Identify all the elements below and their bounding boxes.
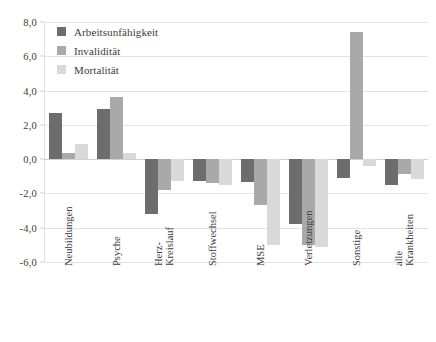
legend-item-label: Invalidität bbox=[74, 45, 120, 57]
legend-item-label: Mortalität bbox=[74, 64, 119, 76]
x-axis-label: Verletzungen bbox=[303, 211, 314, 266]
y-tick-label: 4,0 bbox=[23, 85, 44, 96]
legend-swatch-icon bbox=[57, 27, 66, 36]
x-axis-label: Stoffwechsel bbox=[207, 211, 218, 266]
bar bbox=[75, 144, 88, 159]
x-axis-label: alleKrankheiten bbox=[393, 214, 416, 266]
bar-chart: 8,06,04,02,00,0-2,0-4,0-6,0 Arbeitsunfäh… bbox=[0, 0, 436, 342]
legend-item: Invalidität bbox=[57, 41, 158, 60]
y-tick-label: 2,0 bbox=[23, 119, 44, 130]
legend-item: Arbeitsunfähigkeit bbox=[57, 22, 158, 41]
bar bbox=[411, 159, 424, 179]
bar-group bbox=[241, 22, 280, 262]
bar bbox=[289, 159, 302, 224]
x-axis-label: Herz-Kreislauf bbox=[153, 227, 176, 266]
bar bbox=[193, 159, 206, 181]
bar-group bbox=[337, 22, 376, 262]
y-tick-label: -6,0 bbox=[20, 257, 44, 268]
bar bbox=[158, 159, 171, 190]
y-tick-label: 8,0 bbox=[23, 17, 44, 28]
x-axis-label: Psyche bbox=[111, 236, 122, 266]
y-tick-label: 0,0 bbox=[23, 154, 44, 165]
bar bbox=[315, 159, 328, 246]
legend-item: Mortalität bbox=[57, 60, 158, 79]
y-tick-label: -4,0 bbox=[20, 222, 44, 233]
legend-swatch-icon bbox=[57, 46, 66, 55]
bar bbox=[145, 159, 158, 214]
bar bbox=[267, 159, 280, 245]
bar bbox=[171, 159, 184, 181]
bar bbox=[110, 97, 123, 159]
chart-legend: ArbeitsunfähigkeitInvaliditätMortalität bbox=[57, 22, 158, 79]
bar bbox=[49, 113, 62, 159]
bar bbox=[62, 153, 75, 159]
bar bbox=[97, 109, 110, 159]
x-axis-label: MSE bbox=[255, 244, 266, 266]
bar bbox=[219, 159, 232, 185]
bar bbox=[337, 159, 350, 178]
x-axis-label: Sonstige bbox=[351, 230, 362, 266]
bar bbox=[363, 159, 376, 166]
bar bbox=[385, 159, 398, 185]
bar bbox=[350, 32, 363, 159]
bar bbox=[241, 159, 254, 182]
y-tick-label: 6,0 bbox=[23, 51, 44, 62]
bar bbox=[206, 159, 219, 183]
bar bbox=[123, 153, 136, 159]
bar bbox=[398, 159, 411, 174]
legend-item-label: Arbeitsunfähigkeit bbox=[74, 26, 158, 38]
y-tick-label: -2,0 bbox=[20, 188, 44, 199]
gridline bbox=[44, 262, 428, 263]
legend-swatch-icon bbox=[57, 65, 66, 74]
x-axis-label: Neubildungen bbox=[63, 207, 74, 267]
bar bbox=[254, 159, 267, 205]
